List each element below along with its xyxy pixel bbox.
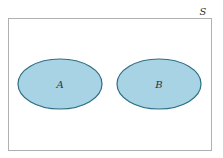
set-a: A <box>18 59 102 109</box>
set-a-label: A <box>55 79 63 90</box>
sample-space-label: S <box>200 6 207 17</box>
set-b-label: B <box>154 79 162 90</box>
set-b: B <box>117 59 201 109</box>
venn-diagram: S A B <box>0 0 223 158</box>
